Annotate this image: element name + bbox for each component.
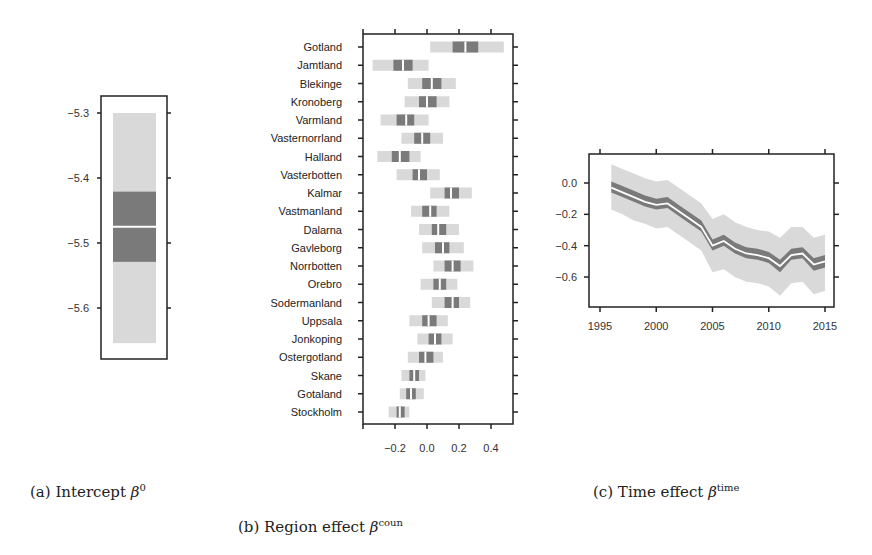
region-label: Gavleborg — [291, 242, 342, 254]
region-row: Dalarna — [303, 224, 518, 236]
y-tick-label: 0.0 — [562, 177, 577, 189]
region-label: Skane — [311, 370, 342, 382]
region-label: Norrbotten — [290, 260, 342, 272]
region-row: Vasternorrland — [271, 132, 518, 144]
region-row: Sodermanland — [270, 297, 518, 309]
region-row: Gotaland — [297, 388, 518, 400]
region-label: Vasternorrland — [271, 132, 342, 144]
region-label: Uppsala — [302, 315, 343, 327]
region-label: Gotland — [303, 41, 342, 53]
panel-intercept: −5.3−5.4−5.5−5.6 — [67, 96, 171, 359]
outer-band — [611, 164, 825, 296]
region-label: Blekinge — [300, 78, 342, 90]
region-label: Halland — [305, 151, 342, 163]
y-tick-label: −0.2 — [555, 208, 577, 220]
region-label: Jamtland — [297, 59, 342, 71]
x-tick-label: −0.2 — [384, 442, 406, 454]
region-label: Sodermanland — [270, 297, 342, 309]
region-row: Gavleborg — [291, 242, 518, 254]
caption-superscript: time — [717, 482, 740, 493]
region-row: Ostergotland — [279, 351, 518, 363]
caption-text: (c) Time effect — [593, 483, 708, 501]
y-tick-label: −5.6 — [67, 302, 89, 314]
caption-time-effect: (c) Time effect βtime — [593, 482, 739, 501]
x-tick-label: 1995 — [588, 320, 612, 332]
y-tick-label: −5.3 — [67, 107, 89, 119]
region-label: Kronoberg — [291, 96, 342, 108]
region-label: Jonkoping — [292, 333, 342, 345]
y-tick-label: −0.6 — [555, 271, 577, 283]
panel-time-effect: 199520002005201020150.0−0.2−0.4−0.6 — [555, 149, 839, 332]
figure-canvas: −5.3−5.4−5.5−5.6 GotlandJamtlandBlekinge… — [0, 0, 872, 555]
region-row: Varmland — [296, 114, 518, 126]
caption-region-effect: (b) Region effect βcoun — [238, 517, 403, 536]
region-row: Blekinge — [300, 78, 518, 90]
x-tick-label: 0.4 — [483, 442, 498, 454]
y-tick-label: −5.5 — [67, 237, 89, 249]
region-label: Kalmar — [307, 187, 342, 199]
region-label: Gotaland — [297, 388, 342, 400]
caption-intercept: (a) Intercept β0 — [30, 482, 146, 501]
region-row: Norrbotten — [290, 260, 518, 272]
region-row: Jonkoping — [292, 333, 518, 345]
region-row: Gotland — [303, 41, 518, 53]
caption-superscript: 0 — [139, 482, 145, 493]
region-label: Ostergotland — [279, 351, 342, 363]
y-tick-label: −5.4 — [67, 172, 89, 184]
region-label: Vasterbotten — [280, 169, 342, 181]
beta-symbol: β — [708, 483, 717, 501]
region-row: Kalmar — [307, 187, 518, 199]
region-row: Skane — [311, 370, 518, 382]
region-label: Orebro — [308, 278, 342, 290]
region-row: Halland — [305, 151, 518, 163]
caption-text: (b) Region effect — [238, 518, 370, 536]
x-tick-label: 2005 — [700, 320, 724, 332]
x-tick-label: 2015 — [813, 320, 837, 332]
region-row: Uppsala — [302, 315, 518, 327]
x-tick-label: 2010 — [757, 320, 781, 332]
region-row: Vasterbotten — [280, 169, 518, 181]
region-row: Kronoberg — [291, 96, 518, 108]
x-tick-label: 0.2 — [451, 442, 466, 454]
region-label: Varmland — [296, 114, 342, 126]
panel-region-effect: GotlandJamtlandBlekingeKronobergVarmland… — [270, 29, 518, 454]
region-label: Dalarna — [303, 224, 342, 236]
region-label: Vastmanland — [279, 205, 342, 217]
region-label: Stockholm — [291, 406, 342, 418]
region-row: Stockholm — [291, 406, 518, 418]
x-tick-label: 0.0 — [419, 442, 434, 454]
x-tick-label: 2000 — [644, 320, 668, 332]
region-row: Jamtland — [297, 59, 518, 71]
caption-superscript: coun — [378, 517, 403, 528]
y-tick-label: −0.4 — [555, 240, 577, 252]
caption-text: (a) Intercept — [30, 483, 131, 501]
region-row: Orebro — [308, 278, 518, 290]
region-row: Vastmanland — [279, 205, 518, 217]
